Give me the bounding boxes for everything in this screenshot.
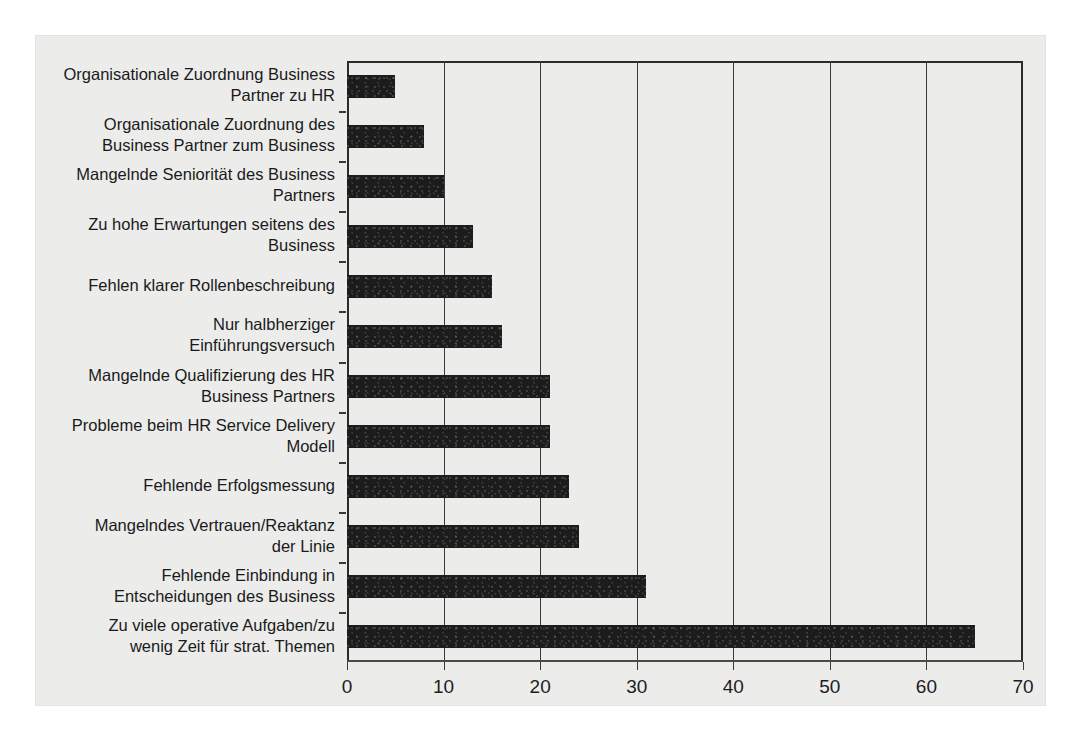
value-tick-30 [637, 662, 638, 670]
value-tick-label: 30 [626, 676, 647, 698]
category-tick [339, 362, 346, 364]
category-label: Nur halbherziger Einführungsversuch [35, 314, 335, 356]
value-tick-label: 0 [342, 676, 353, 698]
bar-chart-figure: Organisationale Zuordnung Business Partn… [0, 0, 1072, 736]
category-label: Fehlende Erfolgsmessung [35, 475, 335, 496]
category-label: Organisationale Zuordnung Business Partn… [35, 64, 335, 106]
value-tick-50 [830, 662, 831, 670]
value-tick-20 [540, 662, 541, 670]
category-tick [339, 311, 346, 313]
category-label: Mangelnde Seniorität des Business Partne… [35, 164, 335, 206]
value-tick-40 [733, 662, 734, 670]
value-axis-ticks: 010203040506070 [347, 61, 1023, 662]
category-tick [339, 211, 346, 213]
value-tick-label: 60 [916, 676, 937, 698]
category-tick [339, 261, 346, 263]
value-tick-70 [1023, 662, 1024, 670]
value-tick-label: 10 [433, 676, 454, 698]
category-label: Mangelndes Vertrauen/Reaktanz der Linie [35, 515, 335, 557]
value-tick-0 [347, 662, 348, 670]
category-label: Probleme beim HR Service Delivery Modell [35, 415, 335, 457]
category-tick [339, 462, 346, 464]
value-tick-10 [444, 662, 445, 670]
category-label: Fehlen klarer Rollenbeschreibung [35, 275, 335, 296]
category-axis-labels: Organisationale Zuordnung Business Partn… [35, 61, 335, 662]
category-label: Organisationale Zuordnung des Business P… [35, 114, 335, 156]
category-tick [339, 412, 346, 414]
category-tick [339, 562, 346, 564]
value-tick-label: 40 [723, 676, 744, 698]
category-label: Fehlende Einbindung in Entscheidungen de… [35, 565, 335, 607]
value-tick-label: 70 [1012, 676, 1033, 698]
value-tick-label: 50 [819, 676, 840, 698]
category-tick [339, 111, 346, 113]
category-label: Zu hohe Erwartungen seitens des Business [35, 214, 335, 256]
category-tick [339, 161, 346, 163]
value-tick-label: 20 [530, 676, 551, 698]
category-label: Mangelnde Qualifizierung des HR Business… [35, 365, 335, 407]
plot-area: 010203040506070 [347, 61, 1023, 662]
category-tick [339, 612, 346, 614]
category-tick [339, 512, 346, 514]
value-tick-60 [926, 662, 927, 670]
category-label: Zu viele operative Aufgaben/zu wenig Zei… [35, 615, 335, 657]
